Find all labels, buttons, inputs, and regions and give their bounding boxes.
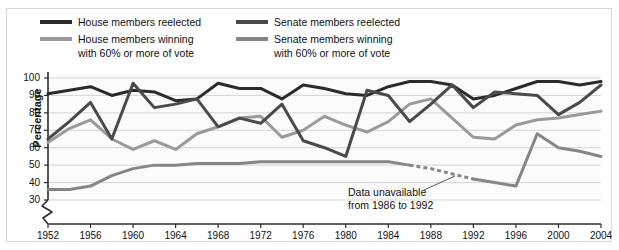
x-tick-label: 1988 (411, 230, 451, 241)
chart-plot-area: Percentage 10090807060504030 19521956196… (0, 0, 619, 250)
y-tick-label: 70 (14, 124, 40, 135)
x-tick-label: 1996 (496, 230, 536, 241)
chart-svg (0, 0, 619, 250)
x-tick-label: 1968 (198, 230, 238, 241)
x-tick-label: 1992 (453, 230, 493, 241)
x-tick-label: 2004 (581, 230, 619, 241)
x-tick-label: 1980 (326, 230, 366, 241)
annotation-line1: Data unavailable (348, 186, 426, 198)
x-tick-label: 1964 (156, 230, 196, 241)
x-tick-label: 1956 (71, 230, 111, 241)
y-tick-label: 90 (14, 89, 40, 100)
annotation-line2: from 1986 to 1992 (348, 199, 433, 211)
x-tick-label: 1984 (368, 230, 408, 241)
y-tick-label: 40 (14, 177, 40, 188)
y-tick-label: 30 (14, 194, 40, 205)
y-tick-label: 100 (14, 72, 40, 83)
x-tick-label: 2000 (538, 230, 578, 241)
x-tick-label: 1972 (241, 230, 281, 241)
chart-figure: House members reelected House members wi… (0, 0, 619, 250)
annotation-data-unavailable: Data unavailable from 1986 to 1992 (348, 186, 433, 212)
y-tick-label: 80 (14, 107, 40, 118)
y-tick-label: 50 (14, 159, 40, 170)
x-tick-label: 1952 (28, 230, 68, 241)
x-tick-label: 1960 (113, 230, 153, 241)
y-tick-label: 60 (14, 142, 40, 153)
x-tick-label: 1976 (283, 230, 323, 241)
